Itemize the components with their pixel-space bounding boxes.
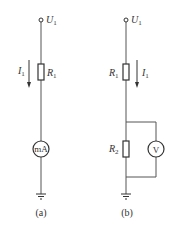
terminal-icon-b <box>124 18 128 22</box>
ground-icon-a <box>36 194 46 199</box>
resistor-icon-b-r1 <box>123 64 129 80</box>
arrowhead-icon-a <box>27 82 31 88</box>
resistor-icon-a-r1 <box>38 64 44 80</box>
circuit-b: U1 R1 I1 R2 V (b) <box>108 14 164 219</box>
resistor-icon-b-r2 <box>123 141 129 157</box>
arrowhead-icon-b <box>135 82 139 88</box>
caption-b: (b) <box>121 207 133 219</box>
resistor-label-b-r2: R2 <box>108 143 119 156</box>
terminal-label-b: U1 <box>131 14 142 27</box>
caption-a: (a) <box>35 207 46 219</box>
terminal-label-a: U1 <box>46 14 57 27</box>
resistor-label-b-r1: R1 <box>108 67 119 80</box>
meter-label-a: mA <box>34 144 48 154</box>
terminal-icon-a <box>39 18 43 22</box>
wire-b-branch-top <box>126 122 156 141</box>
meter-label-b: V <box>153 145 160 155</box>
current-label-a: I1 <box>17 65 25 78</box>
circuit-diagram: U1 R1 I1 mA (a) U1 R1 <box>0 0 178 229</box>
ground-icon-b <box>121 194 131 199</box>
wire-b-branch-bottom <box>126 157 156 177</box>
current-label-b: I1 <box>141 67 149 80</box>
resistor-label-a-r1: R1 <box>46 67 57 80</box>
circuit-a: U1 R1 I1 mA (a) <box>17 14 57 219</box>
